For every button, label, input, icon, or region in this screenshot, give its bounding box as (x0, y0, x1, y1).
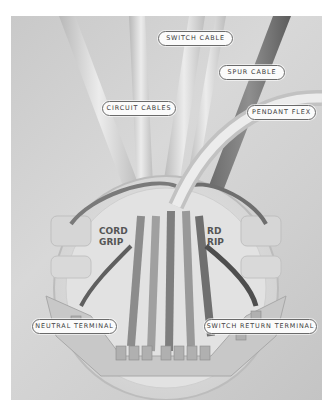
label-switch-return-terminal: SWITCH RETURN TERMINAL (204, 319, 317, 334)
label-switch-cable: SWITCH CABLE (158, 31, 233, 46)
svg-text:CORD: CORD (99, 226, 128, 236)
svg-text:RD: RD (207, 226, 221, 236)
svg-text:GRIP: GRIP (99, 237, 124, 247)
label-spur-cable: SPUR CABLE (219, 65, 285, 80)
svg-text:RIP: RIP (207, 237, 224, 247)
label-neutral-terminal: NEUTRAL TERMINAL (32, 319, 117, 334)
label-circuit-cables: CIRCUIT CABLES (102, 101, 176, 116)
label-pendant-flex: PENDANT FLEX (247, 105, 316, 120)
